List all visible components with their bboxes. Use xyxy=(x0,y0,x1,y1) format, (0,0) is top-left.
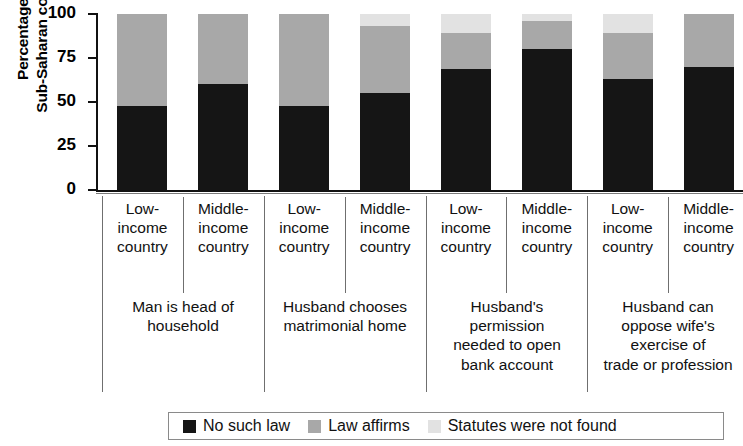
group-label: Husband chooses matrimonial home xyxy=(266,297,424,335)
plot-area: 1007550250 xyxy=(96,14,743,190)
legend-label: Statutes were not found xyxy=(448,417,617,435)
category-label: Middle- income country xyxy=(504,199,590,256)
bar-segment-law-affirms xyxy=(279,14,329,106)
y-axis-title: Percentage of Sub-Saharan countries xyxy=(14,0,52,113)
y-axis-tick-label: 25 xyxy=(57,135,76,155)
y-axis-tick: 25 xyxy=(88,145,96,147)
legend-item: No such law xyxy=(183,417,290,435)
legend-swatch xyxy=(183,420,196,433)
bar-segment-no-such-law xyxy=(603,79,653,190)
stacked-bar xyxy=(360,14,410,190)
y-axis-tick-label: 0 xyxy=(67,179,76,199)
bar-segment-no-such-law xyxy=(522,49,572,190)
stacked-bar xyxy=(279,14,329,190)
bar-segment-law-affirms xyxy=(198,14,248,84)
category-label: Low- income country xyxy=(261,199,347,256)
bar-segment-statutes-not-found xyxy=(522,14,572,21)
x-axis-line xyxy=(96,190,743,192)
bar-segment-no-such-law xyxy=(198,84,248,190)
y-axis-tick: 0 xyxy=(88,189,96,191)
category-label: Middle- income country xyxy=(666,199,743,256)
bar-segment-statutes-not-found xyxy=(360,14,410,26)
y-axis-tick: 50 xyxy=(88,101,96,103)
stacked-bar xyxy=(603,14,653,190)
y-axis-tick-label: 75 xyxy=(57,47,76,67)
category-label: Low- income country xyxy=(423,199,509,256)
stacked-bar xyxy=(198,14,248,190)
category-label: Low- income country xyxy=(99,199,185,256)
legend-label: No such law xyxy=(203,417,290,435)
bar-segment-no-such-law xyxy=(441,69,491,190)
legend-swatch xyxy=(428,420,441,433)
group-label: Husband's permission needed to open bank… xyxy=(428,297,586,374)
bar-segment-law-affirms xyxy=(522,21,572,49)
bar-segment-law-affirms xyxy=(117,14,167,106)
bar-segment-statutes-not-found xyxy=(441,14,491,33)
category-label: Middle- income country xyxy=(180,199,266,256)
y-axis-tick: 100 xyxy=(88,13,96,15)
bar-segment-no-such-law xyxy=(279,106,329,190)
bar-segment-no-such-law xyxy=(360,93,410,190)
table-top-rule xyxy=(96,193,743,194)
stacked-bar xyxy=(117,14,167,190)
group-label: Man is head of household xyxy=(104,297,262,335)
y-axis-tick-label: 100 xyxy=(48,3,76,23)
y-axis-tick: 75 xyxy=(88,57,96,59)
bar-segment-law-affirms xyxy=(441,33,491,68)
stacked-bar xyxy=(441,14,491,190)
y-axis-tick-label: 50 xyxy=(57,91,76,111)
bar-segment-statutes-not-found xyxy=(603,14,653,33)
legend-swatch xyxy=(308,420,321,433)
x-axis-label-table: Low- income countryMiddle- income countr… xyxy=(96,193,743,396)
chart-figure: Percentage of Sub-Saharan countries 1007… xyxy=(0,0,743,446)
bar-series-container xyxy=(96,14,743,190)
legend-item: Statutes were not found xyxy=(428,417,617,435)
bar-segment-law-affirms xyxy=(360,26,410,93)
chart-legend: No such lawLaw affirmsStatutes were not … xyxy=(168,412,724,440)
bar-segment-no-such-law xyxy=(684,67,734,190)
category-label: Low- income country xyxy=(585,199,671,256)
bar-segment-no-such-law xyxy=(117,106,167,190)
stacked-bar xyxy=(684,14,734,190)
bar-segment-law-affirms xyxy=(603,33,653,79)
bar-segment-law-affirms xyxy=(684,14,734,67)
legend-item: Law affirms xyxy=(308,417,410,435)
legend-label: Law affirms xyxy=(328,417,410,435)
stacked-bar xyxy=(522,14,572,190)
group-label: Husband can oppose wife's exercise of tr… xyxy=(589,297,743,374)
category-label: Middle- income country xyxy=(342,199,428,256)
